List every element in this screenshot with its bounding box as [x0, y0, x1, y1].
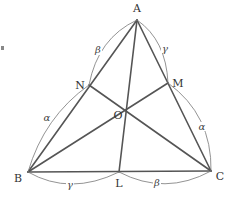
- point-label-L: L: [115, 177, 123, 190]
- vertex-label-C: C: [216, 170, 224, 183]
- cevian-CN: [89, 85, 211, 171]
- arc-label-AM: γ: [162, 43, 168, 54]
- vertex-label-B: B: [14, 172, 22, 185]
- arc-label-NA: β: [94, 44, 101, 55]
- triangle-cevians-diagram: α β γ α γ β A B C N M O L: [0, 0, 239, 200]
- cevian-BM: [28, 83, 168, 172]
- point-label-M: M: [172, 77, 183, 90]
- arc-LC: [119, 171, 211, 184]
- arc-label-BL: γ: [67, 179, 73, 190]
- point-label-O: O: [113, 109, 122, 122]
- side-AB: [28, 20, 137, 172]
- vertex-label-A: A: [132, 2, 142, 15]
- point-label-N: N: [75, 79, 85, 92]
- arc-label-MC: α: [199, 121, 206, 132]
- margin-mark: [1, 46, 4, 50]
- arc-label-LC: β: [153, 177, 160, 188]
- arc-label-BN: α: [44, 112, 51, 123]
- cevian-AL: [119, 20, 137, 172]
